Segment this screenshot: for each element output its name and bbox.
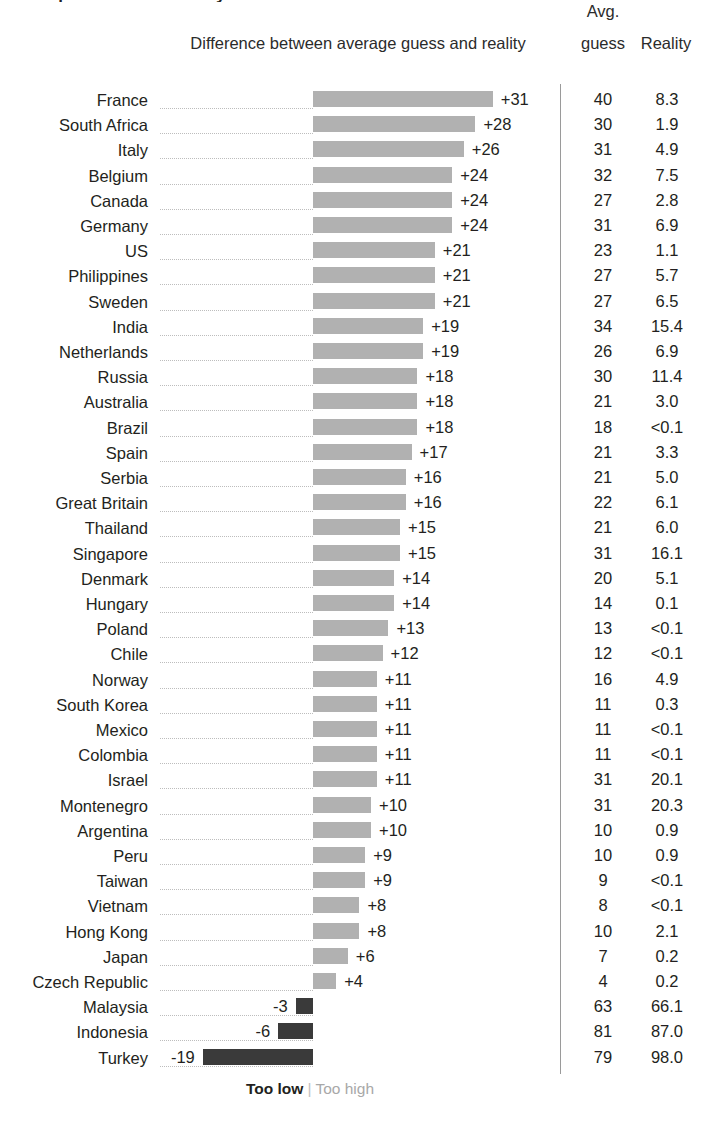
row-difference-value: +21	[443, 239, 471, 262]
row-avg-guess-value: 79	[572, 1046, 634, 1069]
row-avg-guess-value: 10	[572, 920, 634, 943]
table-row: Poland+1313<0.1	[0, 617, 707, 642]
row-country-label: Turkey	[0, 1046, 148, 1071]
table-row: Japan+670.2	[0, 945, 707, 970]
row-difference-value: +26	[472, 138, 500, 161]
row-reality-value: 20.1	[634, 768, 700, 791]
row-leader-line	[160, 940, 313, 941]
row-leader-line	[160, 511, 313, 512]
row-avg-guess-value: 16	[572, 668, 634, 691]
row-difference-value: +13	[396, 617, 424, 640]
row-leader-line	[160, 385, 313, 386]
row-country-label: Israel	[0, 768, 148, 793]
row-country-label: Singapore	[0, 542, 148, 567]
row-reality-value: 2.8	[634, 189, 700, 212]
row-bar	[313, 192, 452, 208]
table-row: South Korea+11110.3	[0, 693, 707, 718]
row-leader-line	[160, 814, 313, 815]
row-reality-value: 5.1	[634, 567, 700, 590]
table-row: Colombia+1111<0.1	[0, 743, 707, 768]
row-leader-line	[160, 284, 313, 285]
row-leader-line	[160, 209, 313, 210]
row-bar	[313, 519, 400, 535]
row-leader-line	[160, 335, 313, 336]
row-avg-guess-value: 18	[572, 416, 634, 439]
row-leader-line	[160, 1040, 313, 1041]
row-leader-line	[160, 914, 313, 915]
row-reality-value: 0.2	[634, 945, 700, 968]
row-avg-guess-value: 8	[572, 894, 634, 917]
row-difference-value: -3	[273, 995, 288, 1018]
chart-rows: France+31408.3South Africa+28301.9Italy+…	[0, 0, 707, 1080]
table-row: South Africa+28301.9	[0, 113, 707, 138]
row-leader-line	[160, 587, 313, 588]
row-avg-guess-value: 21	[572, 516, 634, 539]
row-reality-value: 4.9	[634, 138, 700, 161]
table-row: Belgium+24327.5	[0, 164, 707, 189]
row-reality-value: <0.1	[634, 894, 700, 917]
row-leader-line	[160, 184, 313, 185]
table-row: Chile+1212<0.1	[0, 642, 707, 667]
legend-separator: |	[303, 1080, 315, 1097]
row-country-label: Indonesia	[0, 1020, 148, 1045]
row-reality-value: 15.4	[634, 315, 700, 338]
row-difference-value: +11	[385, 718, 412, 741]
row-leader-line	[160, 360, 313, 361]
table-row: US+21231.1	[0, 239, 707, 264]
table-row: Netherlands+19266.9	[0, 340, 707, 365]
row-country-label: Peru	[0, 844, 148, 869]
row-bar	[313, 343, 423, 359]
table-row: Philippines+21275.7	[0, 264, 707, 289]
row-leader-line	[160, 788, 313, 789]
row-difference-value: +16	[414, 491, 442, 514]
row-leader-line	[160, 637, 313, 638]
row-country-label: Serbia	[0, 466, 148, 491]
row-difference-value: +6	[356, 945, 375, 968]
row-bar	[313, 872, 365, 888]
row-leader-line	[160, 612, 313, 613]
row-difference-value: +24	[460, 214, 488, 237]
row-avg-guess-value: 21	[572, 390, 634, 413]
row-reality-value: 6.9	[634, 214, 700, 237]
row-bar	[313, 973, 336, 989]
table-row: India+193415.4	[0, 315, 707, 340]
row-country-label: Hong Kong	[0, 920, 148, 945]
row-leader-line	[160, 234, 313, 235]
table-row: Spain+17213.3	[0, 441, 707, 466]
row-country-label: Spain	[0, 441, 148, 466]
row-reality-value: 0.3	[634, 693, 700, 716]
row-country-label: Chile	[0, 642, 148, 667]
row-bar	[313, 746, 377, 762]
row-country-label: Great Britain	[0, 491, 148, 516]
row-leader-line	[160, 536, 313, 537]
row-leader-line	[160, 1015, 313, 1016]
row-country-label: Malaysia	[0, 995, 148, 1020]
row-difference-value: +17	[420, 441, 448, 464]
table-row: Malaysia-36366.1	[0, 995, 707, 1020]
row-bar	[313, 948, 348, 964]
row-bar	[313, 696, 377, 712]
row-reality-value: 3.0	[634, 390, 700, 413]
table-row: Italy+26314.9	[0, 138, 707, 163]
row-difference-value: +8	[367, 894, 386, 917]
table-row: Canada+24272.8	[0, 189, 707, 214]
row-reality-value: 0.2	[634, 970, 700, 993]
row-avg-guess-value: 11	[572, 743, 634, 766]
row-avg-guess-value: 7	[572, 945, 634, 968]
row-leader-line	[160, 461, 313, 462]
row-country-label: South Africa	[0, 113, 148, 138]
row-country-label: US	[0, 239, 148, 264]
row-difference-value: +18	[425, 416, 453, 439]
row-avg-guess-value: 14	[572, 592, 634, 615]
row-difference-value: +24	[460, 189, 488, 212]
row-avg-guess-value: 21	[572, 466, 634, 489]
row-leader-line	[160, 688, 313, 689]
row-avg-guess-value: 13	[572, 617, 634, 640]
table-row: Montenegro+103120.3	[0, 794, 707, 819]
row-leader-line	[160, 108, 313, 109]
row-reality-value: 16.1	[634, 542, 700, 565]
row-difference-value: +15	[408, 542, 436, 565]
row-avg-guess-value: 31	[572, 768, 634, 791]
row-avg-guess-value: 31	[572, 214, 634, 237]
row-difference-value: +31	[501, 88, 529, 111]
